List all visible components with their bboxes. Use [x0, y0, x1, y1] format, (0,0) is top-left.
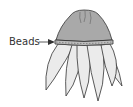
arrow-head-icon [48, 39, 55, 45]
beads-label: Beads [9, 36, 40, 48]
lampshade-diagram [0, 0, 133, 107]
cap-dome [56, 10, 112, 42]
